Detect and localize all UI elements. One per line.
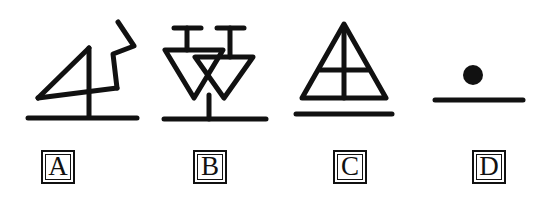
label-box-d: D — [472, 150, 506, 184]
label-text-d: D — [479, 153, 499, 180]
label-box-b: B — [193, 150, 227, 184]
figure-a-cell — [0, 0, 150, 140]
figure-plate: A B C D — [0, 0, 542, 200]
figure-c-drawing — [280, 0, 412, 140]
label-text-b: B — [201, 153, 219, 180]
label-text-a: A — [48, 153, 68, 180]
label-row: A B C D — [0, 140, 542, 200]
label-box-a: A — [41, 150, 75, 184]
figure-d-cell — [412, 0, 542, 140]
label-text-c: C — [341, 153, 359, 180]
figure-b-cell — [150, 0, 280, 140]
filled-dot — [463, 65, 483, 85]
figure-a-drawing — [0, 0, 150, 140]
figure-d-drawing — [412, 0, 542, 140]
figure-b-drawing — [150, 0, 280, 140]
label-box-c: C — [333, 150, 367, 184]
figure-c-cell — [280, 0, 412, 140]
